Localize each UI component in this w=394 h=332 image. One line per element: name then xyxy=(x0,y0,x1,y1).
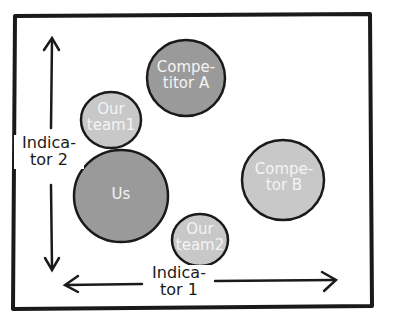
label-line: titor A xyxy=(146,76,226,92)
label-line: tor 1 xyxy=(144,282,214,299)
label-us: Us xyxy=(90,187,152,203)
label-line: team2 xyxy=(170,238,230,254)
label-competitor-b: Compe- tor B xyxy=(243,162,325,194)
label-competitor-a: Compe- titor A xyxy=(146,60,226,92)
label-line: tor B xyxy=(243,178,325,194)
label-line: Us xyxy=(90,187,152,203)
label-our-team1: Our team1 xyxy=(80,102,142,134)
label-line: team1 xyxy=(80,118,142,134)
y-axis-label: Indica- tor 2 xyxy=(14,135,84,169)
label-line: tor 2 xyxy=(14,152,84,169)
x-axis-label: Indica- tor 1 xyxy=(144,265,214,299)
label-our-team2: Our team2 xyxy=(170,222,230,254)
